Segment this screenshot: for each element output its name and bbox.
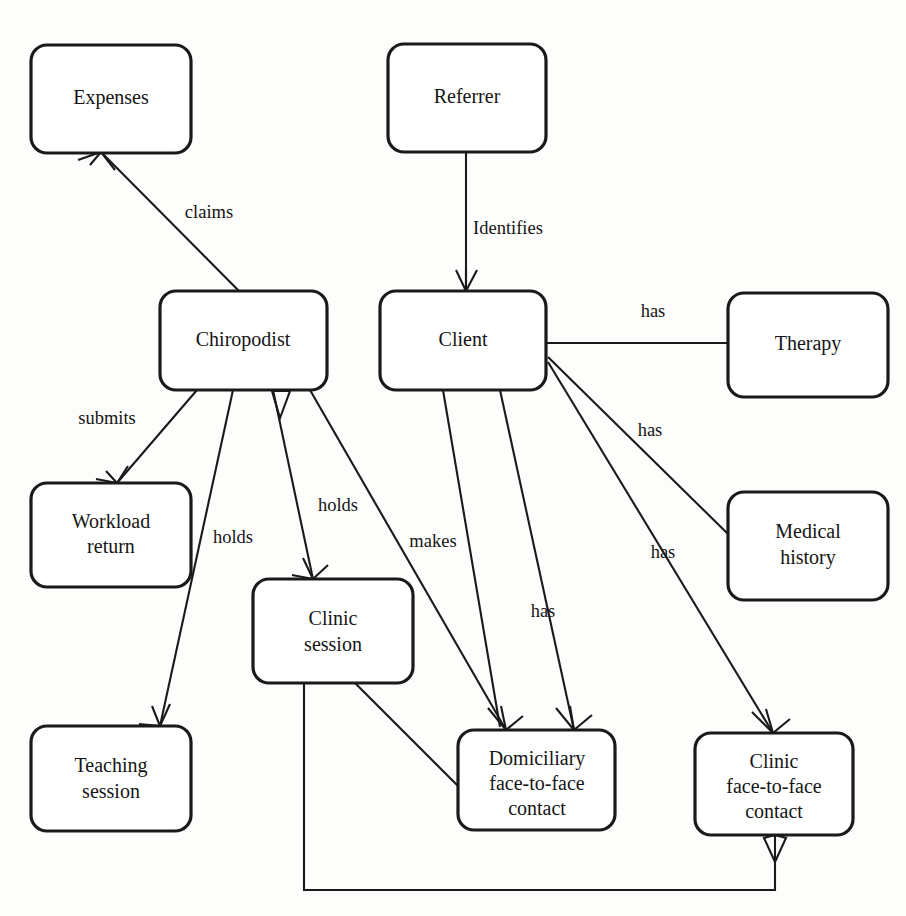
rel-label-submits: submits bbox=[78, 408, 136, 428]
entity-clinic-session-rect[interactable] bbox=[253, 579, 413, 683]
rel-label-holds-teaching-session: holds bbox=[213, 527, 253, 547]
entity-therapy-label: Therapy bbox=[775, 332, 842, 355]
entity-domiciliary-contact[interactable]: Domiciliary face-to-face contact bbox=[458, 730, 615, 830]
rel-label-holds-clinic-session: holds bbox=[318, 495, 358, 515]
entity-client[interactable]: Client bbox=[380, 291, 546, 390]
rel-label-has-clinic-contact: has bbox=[651, 542, 676, 562]
crowfoot-identifies-client bbox=[456, 270, 477, 291]
entity-domiciliary-contact-label-line3: contact bbox=[508, 797, 566, 819]
crowfoot-has-clinicf2f bbox=[752, 709, 790, 733]
rel-label-has-therapy: has bbox=[641, 301, 666, 321]
entity-clinic-contact-label-line3: contact bbox=[745, 800, 803, 822]
entity-clinic-session[interactable]: Clinic session bbox=[253, 579, 413, 683]
crowfoot-submits-workload bbox=[96, 466, 128, 483]
rel-label-has-domiciliary-contact: has bbox=[531, 601, 556, 621]
entity-workload-return-label-line2: return bbox=[87, 535, 135, 557]
line-client-domicil-secondary bbox=[443, 390, 500, 727]
entity-medical-history[interactable]: Medical history bbox=[728, 492, 888, 600]
rel-label-identifies: Identifies bbox=[473, 218, 543, 238]
entity-clinic-contact-label-line1: Clinic bbox=[750, 750, 799, 772]
entity-chiropodist-label: Chiropodist bbox=[196, 328, 291, 351]
entity-chiropodist[interactable]: Chiropodist bbox=[160, 291, 327, 390]
entity-workload-return-label-line1: Workload bbox=[72, 510, 150, 532]
line-submits bbox=[117, 390, 197, 483]
entity-teaching-session-label-line2: session bbox=[82, 780, 140, 802]
er-diagram-svg: Expenses Referrer Chiropodist Client The… bbox=[0, 0, 906, 916]
entity-expenses[interactable]: Expenses bbox=[31, 45, 191, 153]
entity-expenses-label: Expenses bbox=[73, 86, 149, 109]
entity-clinic-contact-label-line2: face-to-face bbox=[726, 775, 822, 797]
entity-clinic-session-label-line2: session bbox=[304, 633, 362, 655]
entity-clinic-contact[interactable]: Clinic face-to-face contact bbox=[695, 733, 853, 835]
line-holds-clinicsess bbox=[273, 390, 313, 579]
entity-medical-history-label-line1: Medical bbox=[775, 520, 841, 542]
entity-referrer[interactable]: Referrer bbox=[388, 44, 546, 152]
entity-client-label: Client bbox=[439, 328, 488, 350]
rel-label-has-medical: has bbox=[638, 420, 663, 440]
entity-referrer-label: Referrer bbox=[434, 85, 501, 107]
crowfoot-holds-teaching bbox=[139, 704, 170, 726]
entity-teaching-session[interactable]: Teaching session bbox=[31, 726, 191, 831]
rel-label-makes: makes bbox=[409, 531, 456, 551]
er-diagram-canvas: Expenses Referrer Chiropodist Client The… bbox=[0, 0, 906, 916]
entity-clinic-session-label-line1: Clinic bbox=[309, 607, 358, 629]
line-has-medical bbox=[548, 357, 728, 534]
entity-teaching-session-label-line1: Teaching bbox=[74, 754, 147, 777]
entity-domiciliary-contact-label-line2: face-to-face bbox=[489, 772, 585, 794]
crowfoot-has-domicil bbox=[556, 706, 592, 730]
entity-therapy[interactable]: Therapy bbox=[728, 293, 888, 397]
line-has-domicil bbox=[500, 390, 574, 730]
rel-label-claims: claims bbox=[185, 202, 233, 222]
entity-domiciliary-contact-label-line1: Domiciliary bbox=[489, 747, 586, 770]
entity-teaching-session-rect[interactable] bbox=[31, 726, 191, 831]
line-clinicsess-domicil bbox=[355, 683, 458, 786]
entity-medical-history-label-line2: history bbox=[780, 546, 836, 569]
entity-workload-return[interactable]: Workload return bbox=[31, 483, 191, 587]
